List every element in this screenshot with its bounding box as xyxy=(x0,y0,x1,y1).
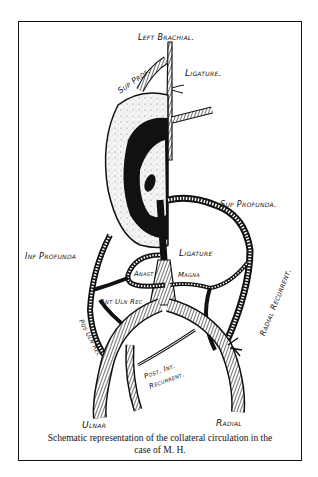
label-ulnar: Ulnar xyxy=(82,420,106,430)
label-radial: Radial xyxy=(216,418,242,428)
label-sup-profunda: Sup Profunda. xyxy=(220,200,277,209)
arterial-diagram xyxy=(0,0,318,477)
label-ligature-mid: Ligature xyxy=(179,248,213,258)
label-ant-uln-rec: Ant Uln Rec xyxy=(100,298,143,306)
label-ligature-top: Ligature. xyxy=(185,68,222,78)
label-inf-profunda: Inf Profunda xyxy=(25,252,76,261)
label-left-brachial: Left Brachial. xyxy=(138,33,194,42)
figure-caption-line-2: case of M. H. xyxy=(22,444,298,456)
label-magna: Magna xyxy=(178,271,200,279)
figure-caption-line-1: Schematic representation of the collater… xyxy=(22,432,298,444)
label-anast: Anast xyxy=(134,270,154,278)
